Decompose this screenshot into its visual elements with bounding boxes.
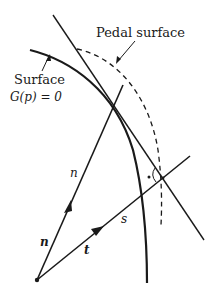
pedal-surface-curve: [77, 49, 162, 225]
n-upper-label: n: [70, 166, 78, 180]
normal-ray-n: [37, 85, 123, 280]
surface-label: Surface: [14, 72, 65, 87]
arrow-head-n-icon: [64, 200, 72, 213]
s-label: s: [121, 212, 127, 226]
t-label: t: [84, 243, 90, 257]
pedal-surface-diagram: Pedal surface Surface G(p) = 0 n n t s: [0, 0, 218, 295]
pedal-leader-line: [118, 41, 135, 61]
origin-point: [35, 278, 39, 282]
pedal-leader-arrow-icon: [116, 56, 121, 64]
right-angle-arc: [153, 168, 156, 182]
surface-equation-label: G(p) = 0: [10, 90, 62, 104]
right-angle-dot: [148, 176, 151, 179]
ray-t: [37, 156, 190, 280]
pedal-surface-label: Pedal surface: [96, 25, 185, 40]
n-lower-label: n: [40, 235, 49, 249]
foot-point: [162, 177, 165, 180]
